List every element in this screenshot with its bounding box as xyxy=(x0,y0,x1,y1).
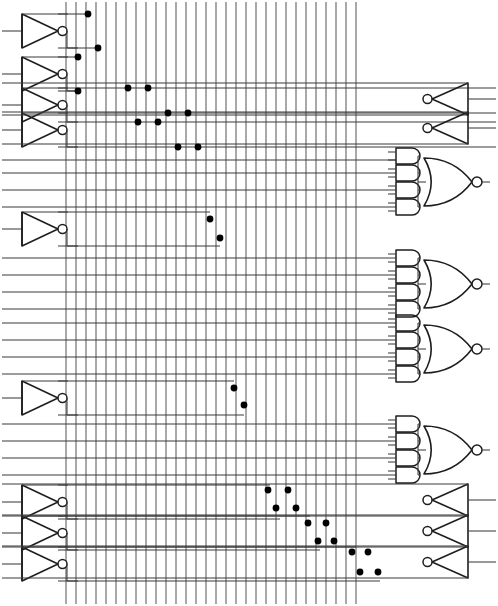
junction-dot-19 xyxy=(273,505,280,512)
inverter-bubble xyxy=(58,27,67,36)
inverter-bubble xyxy=(58,101,67,110)
junction-dot-12 xyxy=(195,144,202,151)
nor-gate xyxy=(424,426,472,474)
inverter-triangle xyxy=(432,112,468,144)
junction-dot-28 xyxy=(375,569,382,576)
and-gate xyxy=(396,450,420,466)
junction-dot-9 xyxy=(165,110,172,117)
and-gate xyxy=(396,182,420,198)
inverter-inv-l3[interactable] xyxy=(2,88,78,122)
inverter-bubble xyxy=(58,498,67,507)
junction-dot-6 xyxy=(145,85,152,92)
inverter-triangle xyxy=(22,381,58,415)
and-gate xyxy=(396,332,420,348)
junction-dot-16 xyxy=(241,402,248,409)
junction-dot-10 xyxy=(185,110,192,117)
junction-dot-25 xyxy=(349,549,356,556)
inverter-inv-l1[interactable] xyxy=(2,14,78,48)
nor-gate xyxy=(424,260,472,308)
and-gate xyxy=(396,416,420,432)
nor-output-bubble xyxy=(472,344,482,354)
decode-block-decode-3[interactable] xyxy=(388,315,490,382)
vertical-bus-group xyxy=(66,2,356,604)
and-gate xyxy=(396,366,420,382)
junction-dot-20 xyxy=(293,505,300,512)
junction-dot-11 xyxy=(175,144,182,151)
junction-dot-23 xyxy=(315,538,322,545)
nor-output-bubble xyxy=(472,177,482,187)
inverter-bubble xyxy=(58,225,67,234)
junction-dot-27 xyxy=(357,569,364,576)
and-gate xyxy=(396,267,420,283)
and-gate xyxy=(396,148,420,164)
inverter-triangle xyxy=(22,547,58,581)
logic-schematic xyxy=(0,0,498,606)
inverter-bubble xyxy=(423,95,432,104)
and-gate xyxy=(396,165,420,181)
inverter-triangle xyxy=(432,546,468,578)
inverter-bubble xyxy=(58,70,67,79)
and-gate xyxy=(396,199,420,215)
inverter-bubble xyxy=(423,124,432,133)
inverter-bubble xyxy=(423,496,432,505)
junction-dot-3 xyxy=(75,54,82,61)
nor-gate xyxy=(424,158,472,206)
inverter-triangle xyxy=(22,212,58,246)
inverter-inv-l7[interactable] xyxy=(2,485,78,519)
inverter-triangle xyxy=(432,484,468,516)
junction-dot-24 xyxy=(331,538,338,545)
inverter-inv-l5[interactable] xyxy=(2,212,78,246)
and-gate xyxy=(396,433,420,449)
junction-dot-18 xyxy=(285,487,292,494)
inverter-triangle xyxy=(432,515,468,547)
inverter-bubble xyxy=(423,527,432,536)
junction-dot-5 xyxy=(125,85,132,92)
junction-dot-group xyxy=(75,11,382,576)
decode-block-decode-2[interactable] xyxy=(388,250,490,317)
junction-dot-14 xyxy=(217,235,224,242)
junction-dot-15 xyxy=(231,385,238,392)
inverter-inv-l9[interactable] xyxy=(2,547,78,581)
junction-dot-26 xyxy=(365,549,372,556)
junction-dot-22 xyxy=(323,520,330,527)
nor-output-bubble xyxy=(472,279,482,289)
nor-gate xyxy=(424,325,472,373)
junction-dot-8 xyxy=(155,119,162,126)
inverter-triangle xyxy=(22,57,58,91)
inverter-inv-l6[interactable] xyxy=(2,381,78,415)
schematic-canvas xyxy=(0,0,498,606)
inverter-triangle xyxy=(22,485,58,519)
inverter-triangle xyxy=(22,14,58,48)
nor-output-bubble xyxy=(472,445,482,455)
decode-block-decode-1[interactable] xyxy=(388,148,490,215)
junction-dot-1 xyxy=(85,11,92,18)
and-gate xyxy=(396,250,420,266)
junction-dot-4 xyxy=(75,88,82,95)
decode-block-decode-4[interactable] xyxy=(388,416,490,483)
junction-dot-13 xyxy=(207,216,214,223)
inverter-bubble xyxy=(58,126,67,135)
inverter-triangle xyxy=(22,516,58,550)
decode-block-group xyxy=(388,148,490,483)
junction-dot-2 xyxy=(95,45,102,52)
and-gate xyxy=(396,284,420,300)
inverter-bubble xyxy=(423,558,432,567)
junction-dot-7 xyxy=(135,119,142,126)
inverter-inv-l2[interactable] xyxy=(2,57,78,91)
inverter-bubble xyxy=(58,529,67,538)
inverter-bubble xyxy=(58,560,67,569)
inverter-inv-l8[interactable] xyxy=(2,516,78,550)
junction-dot-21 xyxy=(305,520,312,527)
left-inverter-group xyxy=(2,14,78,581)
and-gate xyxy=(396,467,420,483)
junction-dot-17 xyxy=(265,487,272,494)
inverter-triangle xyxy=(22,88,58,122)
inverter-bubble xyxy=(58,394,67,403)
and-gate xyxy=(396,349,420,365)
inverter-triangle xyxy=(22,113,58,147)
